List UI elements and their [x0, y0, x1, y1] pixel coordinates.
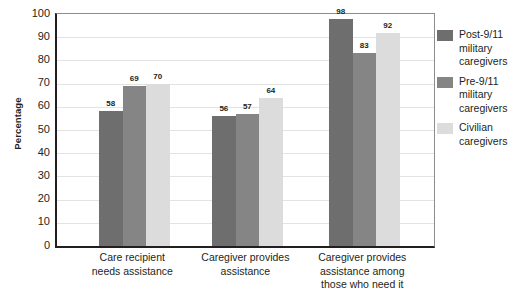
- y-axis-tick-labels: 1009080706050403020100: [18, 13, 50, 245]
- bar: 92: [376, 14, 400, 246]
- x-axis-category-label-line: those who need it: [298, 278, 426, 292]
- bar: 98: [329, 14, 353, 246]
- legend-label-line: Civilian: [459, 121, 507, 135]
- x-axis-category-label-line: Caregiver provides: [298, 251, 426, 265]
- legend-label: Pre-9/11militarycaregivers: [459, 75, 507, 116]
- bar-rect: [212, 116, 236, 246]
- bar-rect: [353, 53, 377, 246]
- x-axis-category-label: Caregiver providesassistance amongthose …: [298, 251, 426, 292]
- bar-value-label: 98: [336, 8, 345, 16]
- bar-value-label: 64: [266, 87, 275, 95]
- legend-item[interactable]: Post-9/11militarycaregivers: [437, 28, 529, 69]
- y-axis-tick-label: 50: [18, 124, 50, 135]
- x-axis-category-label-line: assistance among: [298, 265, 426, 279]
- bar-value-label: 69: [130, 75, 139, 83]
- x-axis-category-label-line: Care recipient: [68, 251, 196, 265]
- bar-rect: [329, 19, 353, 246]
- bar: 69: [123, 14, 147, 246]
- bar: 64: [259, 14, 283, 246]
- legend-item[interactable]: Pre-9/11militarycaregivers: [437, 75, 529, 116]
- plot-area: 586970565764988392: [55, 13, 435, 248]
- legend-label-line: military: [459, 88, 507, 102]
- bar-rect: [376, 33, 400, 246]
- y-axis-tick-label: 100: [18, 8, 50, 19]
- bar-rect: [259, 98, 283, 246]
- y-axis-tick-label: 80: [18, 54, 50, 65]
- x-axis-category-label-line: needs assistance: [68, 265, 196, 279]
- legend-label-line: military: [459, 42, 507, 56]
- legend-label-line: caregivers: [459, 102, 507, 116]
- x-axis-category-label: Care recipientneeds assistance: [68, 251, 196, 278]
- bar-chart: Percentage 1009080706050403020100 586970…: [0, 0, 529, 302]
- bar-value-label: 56: [219, 105, 228, 113]
- y-axis-tick-label: 20: [18, 193, 50, 204]
- legend-label: Civiliancaregivers: [459, 121, 507, 148]
- bar-rect: [146, 84, 170, 246]
- bar: 58: [99, 14, 123, 246]
- y-axis-tick-label: 0: [18, 240, 50, 251]
- x-axis-category-label-line: Caregiver provides: [181, 251, 309, 265]
- x-axis-category-label: Caregiver providesassistance: [181, 251, 309, 278]
- bar-value-label: 92: [383, 22, 392, 30]
- legend-label-line: caregivers: [459, 55, 507, 69]
- bar: 57: [236, 14, 260, 246]
- bar: 70: [146, 14, 170, 246]
- legend-color-swatch: [437, 30, 453, 41]
- legend-label: Post-9/11militarycaregivers: [459, 28, 507, 69]
- bar-value-label: 58: [106, 100, 115, 108]
- legend: Post-9/11militarycaregiversPre-9/11milit…: [437, 28, 529, 154]
- legend-label-line: Post-9/11: [459, 28, 507, 42]
- bar: 56: [212, 14, 236, 246]
- legend-label-line: caregivers: [459, 135, 507, 149]
- bar-rect: [123, 86, 147, 246]
- y-axis-tick-label: 70: [18, 77, 50, 88]
- y-axis-tick-label: 90: [18, 31, 50, 42]
- bar-rect: [236, 114, 260, 246]
- bar-value-label: 70: [153, 73, 162, 81]
- bar-group: 988392: [329, 14, 400, 246]
- bar: 83: [353, 14, 377, 246]
- x-axis-category-label-line: assistance: [181, 265, 309, 279]
- legend-label-line: Pre-9/11: [459, 75, 507, 89]
- bar-group: 565764: [212, 14, 283, 246]
- bar-value-label: 57: [243, 103, 252, 111]
- bar-group: 586970: [99, 14, 170, 246]
- y-axis-tick-label: 30: [18, 170, 50, 181]
- y-axis-tick-label: 10: [18, 216, 50, 227]
- y-axis-tick-label: 40: [18, 147, 50, 158]
- legend-color-swatch: [437, 77, 453, 88]
- x-axis-category-labels: Care recipientneeds assistanceCaregiver …: [55, 251, 432, 301]
- bar-value-label: 83: [360, 42, 369, 50]
- y-axis-tick-label: 60: [18, 100, 50, 111]
- legend-color-swatch: [437, 123, 453, 134]
- bar-rect: [99, 111, 123, 246]
- legend-item[interactable]: Civiliancaregivers: [437, 121, 529, 148]
- bars-layer: 586970565764988392: [57, 14, 434, 246]
